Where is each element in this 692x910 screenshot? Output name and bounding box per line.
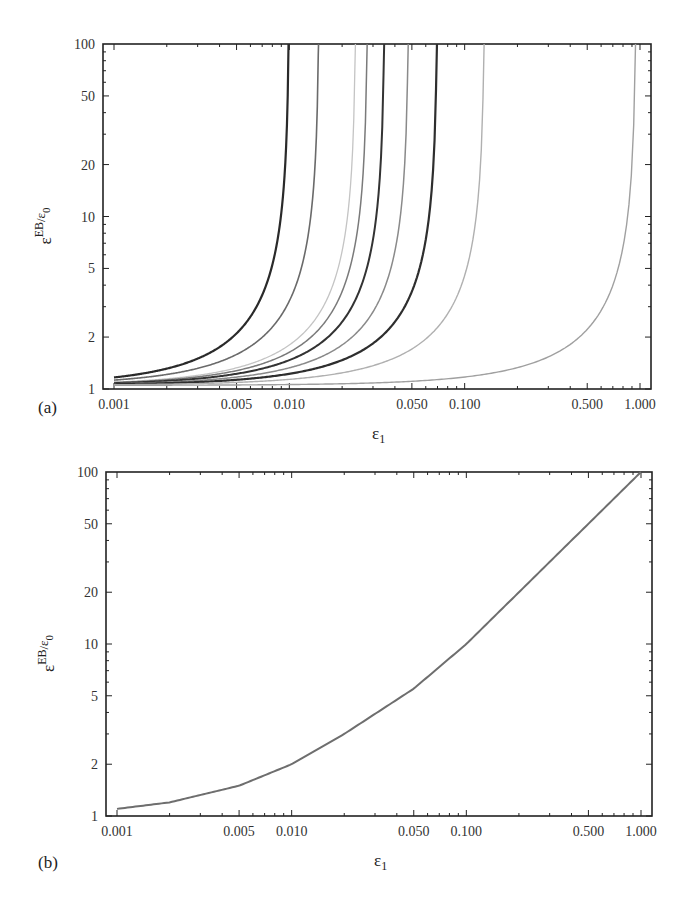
figure-panel-a: 0.0010.0050.0100.0500.1000.5001.00012510… [0, 0, 692, 450]
plot-area-a: 0.0010.0050.0100.0500.1000.5001.00012510… [0, 0, 692, 450]
y-tick-label: 20 [81, 158, 95, 173]
y-tick-label: 10 [81, 210, 95, 225]
x-axis-title: ε1 [374, 851, 387, 873]
series-group-a [114, 19, 636, 385]
y-tick-label: 1 [91, 809, 98, 824]
y-tick-label: 50 [81, 89, 95, 104]
y-tick-label: 50 [84, 517, 98, 532]
x-tick-label: 0.001 [98, 397, 130, 412]
x-tick-label: 0.050 [398, 824, 430, 839]
y-tick-label: 5 [88, 261, 95, 276]
x-axis-title: ε1 [372, 424, 385, 446]
x-tick-label: 0.001 [101, 824, 133, 839]
x-tick-label: 0.100 [451, 824, 483, 839]
panel-label-b: (b) [38, 853, 58, 873]
series-line-curve-6 [114, 19, 409, 384]
plot-frame [106, 472, 652, 816]
y-tick-label: 100 [74, 37, 95, 52]
series-line-curve-9 [114, 19, 636, 385]
series-line-curve-7 [114, 19, 438, 384]
x-tick-label: 0.005 [223, 824, 255, 839]
x-tick-label: 0.005 [221, 397, 253, 412]
x-tick-label: 1.000 [625, 824, 657, 839]
x-tick-label: 0.100 [449, 397, 481, 412]
x-tick-label: 0.500 [571, 397, 603, 412]
figure-panel-b: 0.0010.0050.0100.0500.1000.5001.00012510… [0, 450, 692, 910]
y-tick-label: 2 [88, 330, 95, 345]
series-line-curve-5 [114, 19, 385, 383]
y-axis-title: εEB/ε0 [35, 634, 58, 672]
y-tick-label: 20 [84, 585, 98, 600]
x-tick-label: 1.000 [624, 397, 656, 412]
series-line-curve [117, 472, 641, 809]
x-tick-label: 0.010 [276, 824, 308, 839]
x-tick-label: 0.010 [274, 397, 306, 412]
y-tick-label: 100 [77, 465, 98, 480]
x-tick-label: 0.050 [396, 397, 428, 412]
x-tick-label: 0.500 [573, 824, 605, 839]
panel-label-a: (a) [38, 398, 57, 418]
plot-area-b: 0.0010.0050.0100.0500.1000.5001.00012510… [0, 450, 692, 910]
series-line-curve-8 [114, 19, 485, 385]
y-axis-title: εEB/ε0 [32, 207, 55, 245]
y-tick-label: 1 [88, 382, 95, 397]
y-tick-label: 2 [91, 757, 98, 772]
series-line-curve-1 [114, 19, 289, 378]
y-tick-label: 5 [91, 689, 98, 704]
y-tick-label: 10 [84, 637, 98, 652]
